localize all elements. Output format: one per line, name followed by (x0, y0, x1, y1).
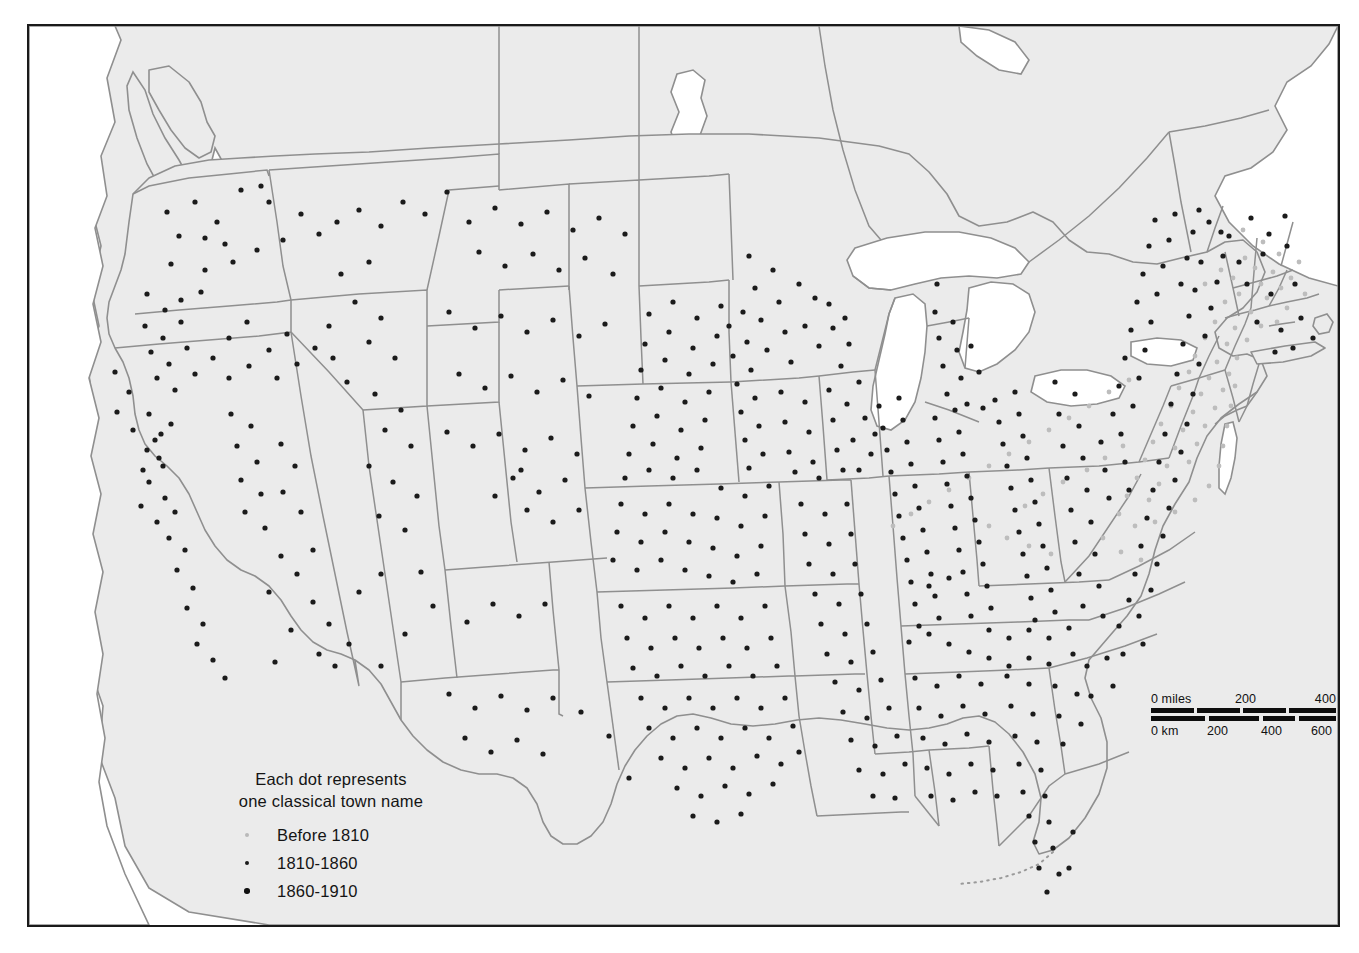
legend-label-before-1810: Before 1810 (277, 826, 369, 845)
scale-miles-400-label: 400 (1315, 692, 1336, 707)
scale-bar-km (1151, 716, 1336, 723)
map-page: .land{fill:#ebebeb;stroke:#8f8f8f;stroke… (0, 0, 1359, 953)
legend-swatch-black-dot-small-icon (237, 861, 257, 866)
scale-miles-200-label: 200 (1235, 692, 1256, 707)
lake-erie (1031, 370, 1125, 406)
scale-miles-zero-label: 0 miles (1151, 692, 1191, 707)
legend-item-1860-1910: 1860-1910 (237, 877, 481, 905)
map-scale-bar: 0 miles 200 400 0 km 200 400 600 (1151, 692, 1336, 739)
scale-km-600-label: 600 (1311, 724, 1332, 739)
scale-miles-labels: 0 miles 200 400 (1151, 692, 1336, 707)
legend-item-before-1810: Before 1810 (237, 821, 481, 849)
legend-swatch-gray-dot-icon (237, 833, 257, 837)
scale-km-labels: 0 km 200 400 600 (1151, 724, 1336, 739)
map-legend: Each dot represents one classical town n… (181, 768, 481, 905)
legend-item-1810-1860: 1810-1860 (237, 849, 481, 877)
scale-km-zero-label: 0 km (1151, 724, 1179, 739)
legend-items: Before 1810 1810-1860 1860-1910 (181, 821, 481, 905)
legend-swatch-black-dot-large-icon (237, 888, 257, 894)
lake-ontario (1131, 338, 1197, 366)
scale-km-400-label: 400 (1261, 724, 1282, 739)
legend-label-1810-1860: 1810-1860 (277, 854, 358, 873)
scale-bar-miles (1151, 708, 1336, 715)
map-frame: .land{fill:#ebebeb;stroke:#8f8f8f;stroke… (27, 24, 1340, 927)
scale-km-200-label: 200 (1207, 724, 1228, 739)
legend-label-1860-1910: 1860-1910 (277, 882, 358, 901)
legend-title: Each dot represents one classical town n… (181, 768, 481, 812)
